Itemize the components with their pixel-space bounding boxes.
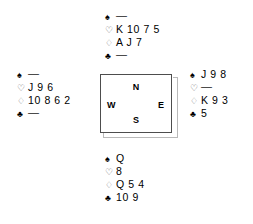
hand-north-hearts-row: ♡ K 10 7 5 <box>105 23 160 36</box>
hand-west-spades-cards: — <box>28 67 39 80</box>
hand-west-clubs-cards: — <box>28 106 39 119</box>
hand-east-clubs-row: ♣ 5 <box>190 107 229 120</box>
compass-box-shadow-bottom <box>103 133 178 138</box>
compass-label-west: W <box>107 100 116 110</box>
hand-west-hearts-row: ♡ J 9 6 <box>17 81 71 94</box>
hand-south-clubs-cards: 10 9 <box>116 191 139 204</box>
spade-icon: ♠ <box>190 69 201 82</box>
hand-north-clubs-cards: — <box>116 48 127 61</box>
club-icon: ♣ <box>105 192 116 205</box>
hand-west-spades-row: ♠ — <box>17 68 71 81</box>
hand-east-diamonds-row: ♢ K 9 3 <box>190 94 229 107</box>
club-icon: ♣ <box>190 108 201 121</box>
diamond-icon: ♢ <box>105 37 116 50</box>
hand-east-clubs-cards: 5 <box>201 107 207 120</box>
hand-east: ♠ J 9 8 ♡ — ♢ K 9 3 ♣ 5 <box>190 68 229 120</box>
hand-south-diamonds-row: ♢ Q 5 4 <box>105 178 145 191</box>
hand-north-spades-cards: — <box>116 9 127 22</box>
club-icon: ♣ <box>17 108 28 121</box>
spade-icon: ♠ <box>105 11 116 24</box>
hand-south-clubs-row: ♣ 10 9 <box>105 191 145 204</box>
hand-south: ♠ Q ♡ 8 ♢ Q 5 4 ♣ 10 9 <box>105 152 145 204</box>
hand-north-clubs-row: ♣ — <box>105 49 160 62</box>
compass-label-north: N <box>100 82 172 92</box>
diamond-icon: ♢ <box>190 95 201 108</box>
hand-north-hearts-cards: K 10 7 5 <box>116 23 160 36</box>
compass-box: N W E S <box>100 74 172 133</box>
hand-west-diamonds-row: ♢ 10 8 6 2 <box>17 94 71 107</box>
compass-label-east: E <box>158 100 164 110</box>
heart-icon: ♡ <box>190 82 201 95</box>
hand-south-hearts-cards: 8 <box>116 165 122 178</box>
spade-icon: ♠ <box>105 153 116 166</box>
diamond-icon: ♢ <box>17 95 28 108</box>
heart-icon: ♡ <box>105 24 116 37</box>
hand-north-diamonds-row: ♢ A J 7 <box>105 36 160 49</box>
hand-north-spades-row: ♠ — <box>105 10 160 23</box>
hand-east-hearts-row: ♡ — <box>190 81 229 94</box>
club-icon: ♣ <box>105 50 116 63</box>
hand-south-diamonds-cards: Q 5 4 <box>116 178 145 191</box>
heart-icon: ♡ <box>105 166 116 179</box>
diamond-icon: ♢ <box>105 179 116 192</box>
hand-east-diamonds-cards: K 9 3 <box>201 94 229 107</box>
compass-label-south: S <box>100 115 172 125</box>
heart-icon: ♡ <box>17 82 28 95</box>
bridge-deal-diagram: ♠ — ♡ K 10 7 5 ♢ A J 7 ♣ — ♠ — ♡ J 9 6 ♢… <box>0 0 253 224</box>
hand-south-spades-row: ♠ Q <box>105 152 145 165</box>
compass-box-shadow-right <box>173 77 178 137</box>
hand-west-hearts-cards: J 9 6 <box>28 81 54 94</box>
hand-east-hearts-cards: — <box>201 80 212 93</box>
spade-icon: ♠ <box>17 69 28 82</box>
hand-north: ♠ — ♡ K 10 7 5 ♢ A J 7 ♣ — <box>105 10 160 62</box>
hand-west: ♠ — ♡ J 9 6 ♢ 10 8 6 2 ♣ — <box>17 68 71 120</box>
hand-south-spades-cards: Q <box>116 152 125 165</box>
hand-west-clubs-row: ♣ — <box>17 107 71 120</box>
hand-south-hearts-row: ♡ 8 <box>105 165 145 178</box>
